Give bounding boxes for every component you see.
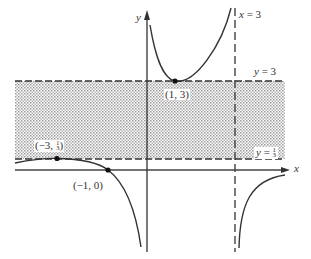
label-point-1-3: (1, 3) — [164, 89, 190, 100]
point-neg3-one-third — [54, 156, 59, 161]
point-neg1-0 — [105, 167, 110, 172]
label-x-var: x — [239, 8, 244, 20]
label-point-neg3-one-third: (−3, 13) — [34, 140, 64, 152]
label-x-eq: = — [247, 8, 253, 20]
curve-middle-branch — [150, 8, 231, 81]
label-y3-eq: = — [262, 65, 268, 77]
label-y13-var: y — [256, 146, 261, 158]
label-y3-val: 3 — [271, 65, 277, 77]
y-axis-label: y — [136, 12, 141, 23]
label-y13-eq: = — [264, 146, 270, 158]
label-y3-var: y — [254, 65, 259, 77]
label-point-neg1-0: (−1, 0) — [73, 180, 103, 191]
label-y13-fraction: 13 — [273, 148, 277, 159]
function-graph: y x x = 3 y = 3 y = 13 (1, 3) (−3, 13) (… — [0, 0, 311, 259]
curve-right-branch — [239, 175, 285, 248]
curve-left-branch — [15, 158, 141, 247]
x-axis-arrow-icon — [281, 167, 290, 173]
label-x-equals-3: x = 3 — [239, 9, 261, 20]
graph-canvas — [0, 0, 311, 259]
label-y-equals-one-third: y = 13 — [254, 147, 278, 159]
label-x-val: 3 — [256, 8, 262, 20]
x-axis-label: x — [294, 163, 299, 174]
label-y-equals-3: y = 3 — [254, 66, 276, 77]
y-axis-arrow-icon — [144, 10, 150, 20]
point-1-3 — [172, 78, 177, 83]
